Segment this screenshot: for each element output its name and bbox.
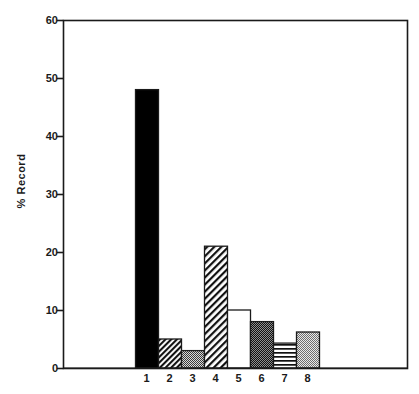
bar-2 — [159, 339, 182, 368]
bar-7 — [274, 343, 297, 368]
bar-chart: % Record 0 10 20 30 40 50 60 1 2 3 4 5 6… — [0, 0, 419, 394]
y-axis-ticks — [57, 21, 64, 369]
bar-4 — [205, 246, 228, 368]
bar-8 — [297, 332, 320, 368]
bar-series — [136, 90, 320, 368]
bar-3 — [182, 351, 205, 368]
bar-6 — [251, 322, 274, 368]
bar-1 — [136, 90, 159, 368]
bar-5 — [228, 310, 251, 368]
plot-area — [0, 0, 419, 394]
